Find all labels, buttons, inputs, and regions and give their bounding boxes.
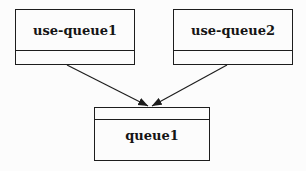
node-queue1-empty-compartment bbox=[95, 108, 209, 120]
edge-use-queue2-to-queue1 bbox=[152, 65, 227, 106]
node-use-queue1-name-compartment: use-queue1 bbox=[16, 10, 134, 51]
edge-use-queue1-to-queue1 bbox=[67, 65, 148, 106]
node-queue1: queue1 bbox=[94, 107, 210, 161]
node-use-queue2-name-compartment: use-queue2 bbox=[174, 10, 292, 51]
node-use-queue2-label: use-queue2 bbox=[191, 24, 275, 37]
node-use-queue2: use-queue2 bbox=[173, 9, 293, 65]
diagram-canvas: use-queue1 use-queue2 queue1 bbox=[0, 0, 306, 171]
node-use-queue2-empty-compartment bbox=[174, 51, 292, 64]
node-use-queue1: use-queue1 bbox=[15, 9, 135, 65]
node-queue1-name-compartment: queue1 bbox=[95, 120, 209, 160]
node-use-queue1-label: use-queue1 bbox=[33, 24, 117, 37]
node-queue1-label: queue1 bbox=[125, 129, 179, 142]
node-use-queue1-empty-compartment bbox=[16, 51, 134, 64]
